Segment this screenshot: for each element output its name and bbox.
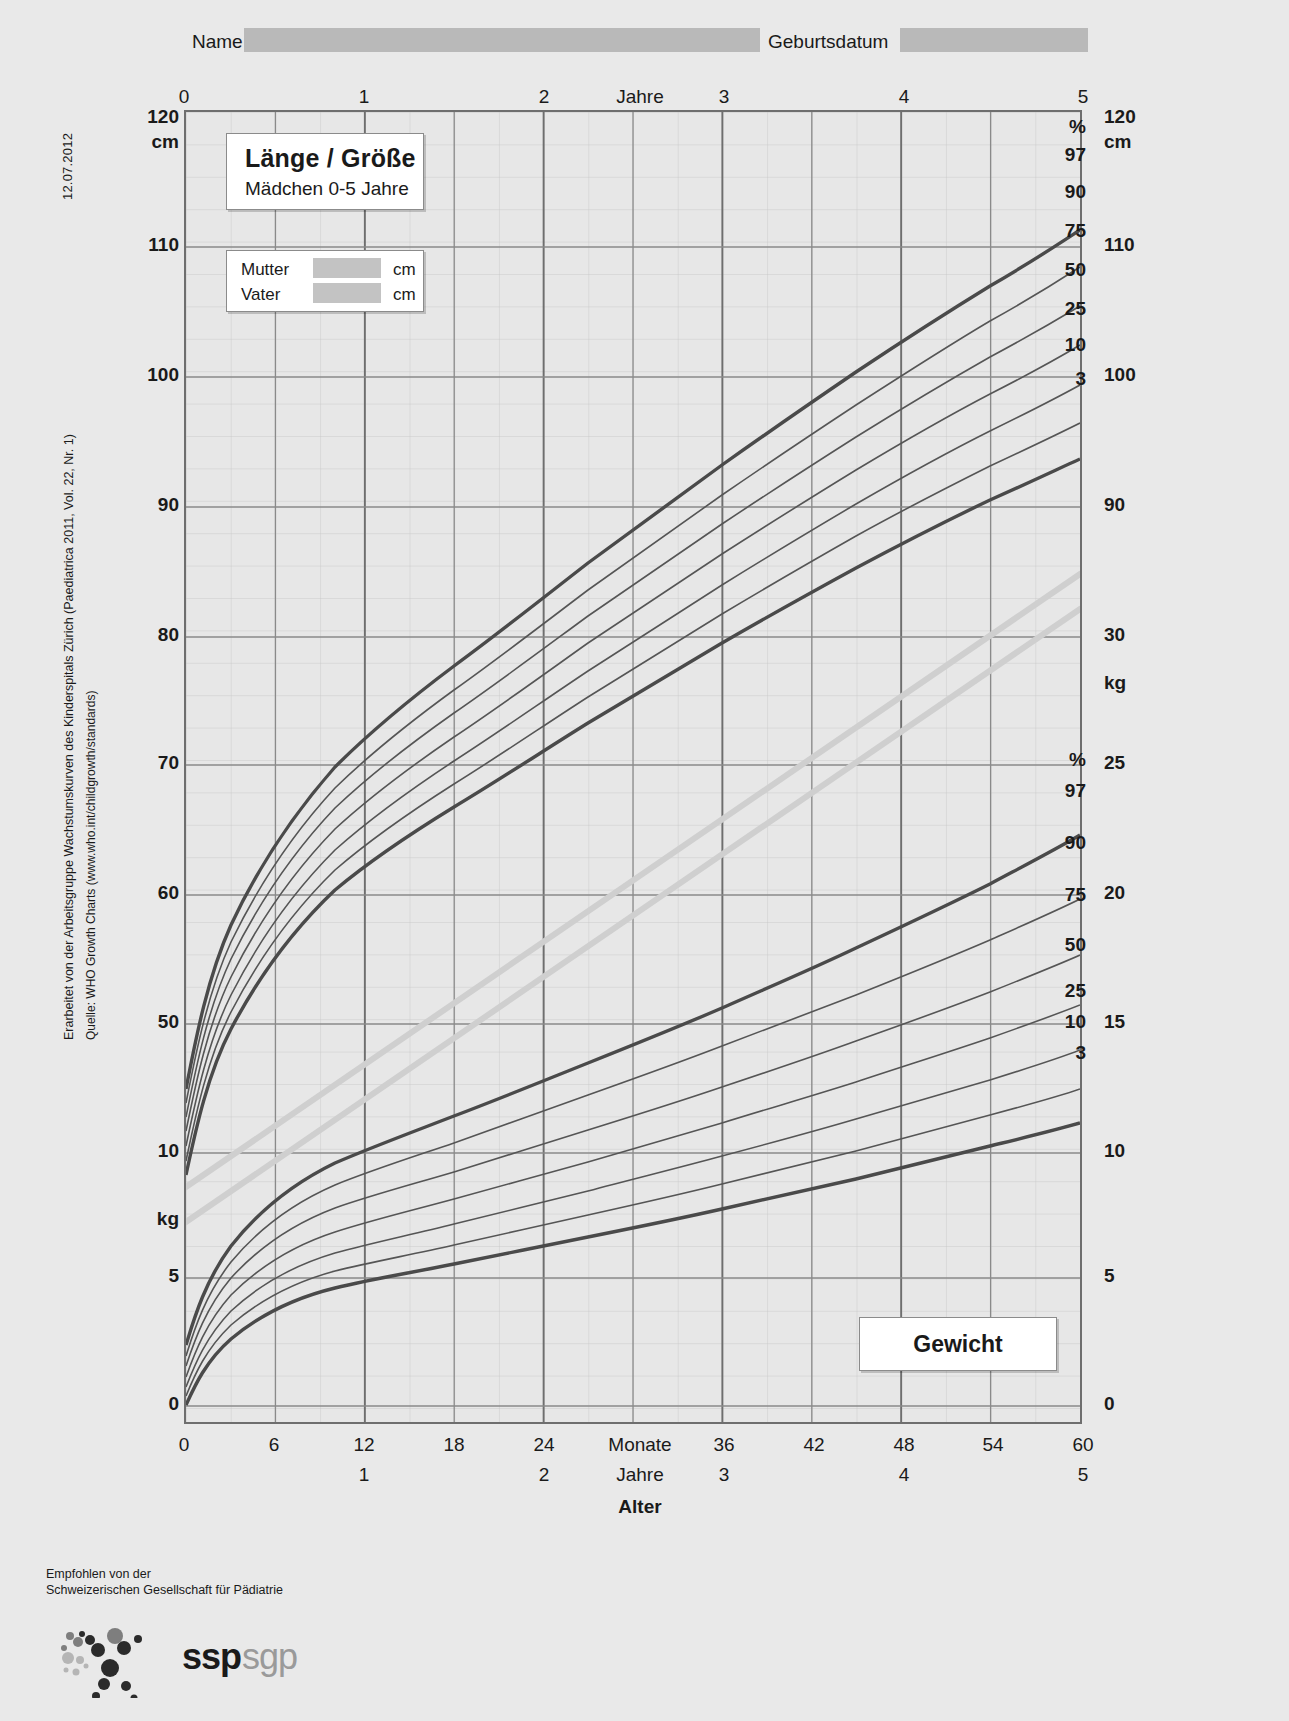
weight-section-title: Gewicht [860, 1318, 1056, 1370]
ylabel-length-unit: cm [119, 131, 179, 153]
ylabel-length-70: 70 [119, 752, 179, 774]
weight-pct-90: 90 [1042, 832, 1086, 854]
weight-pct-97: 97 [1042, 780, 1086, 802]
top-axis-unit-label: Jahre [616, 86, 664, 108]
top-tick-1: 1 [359, 86, 370, 108]
mother-unit: cm [393, 260, 416, 280]
year-tick-2: 2 [539, 1464, 550, 1486]
ylabel-weight-unit: kg [119, 1208, 179, 1230]
top-tick-3: 3 [719, 86, 730, 108]
top-tick-2: 2 [539, 86, 550, 108]
weight-pct-3: 3 [1042, 1042, 1086, 1064]
year-tick-4: 4 [899, 1464, 910, 1486]
year-tick-5: 5 [1078, 1464, 1089, 1486]
ylabel-weight-5: 5 [119, 1265, 179, 1287]
month-tick-0: 0 [179, 1434, 190, 1456]
birthdate-label: Geburtsdatum [768, 31, 888, 53]
ylabel-length-120: 120 [119, 106, 179, 128]
bottom-axis-months-label: Monate [608, 1434, 671, 1456]
footer-line-2: Schweizerischen Gesellschaft für Pädiatr… [46, 1582, 283, 1598]
ylabel-length-90: 90 [119, 494, 179, 516]
name-input[interactable] [244, 28, 760, 52]
ylabel-weight-10: 10 [119, 1140, 179, 1162]
length-percent-symbol: % [1042, 116, 1086, 138]
weight-label-box: Gewicht [859, 1317, 1057, 1371]
length-pct-75: 75 [1042, 220, 1086, 242]
footer-line-1: Empfohlen von der [46, 1566, 283, 1582]
logo-word-sgp: sgp [242, 1636, 297, 1678]
footer-recommendation: Empfohlen von der Schweizerischen Gesell… [46, 1566, 283, 1598]
length-pct-97: 97 [1042, 144, 1086, 166]
ylabel-right-length-100: 100 [1104, 364, 1164, 386]
top-tick-5: 5 [1078, 86, 1089, 108]
year-tick-3: 3 [719, 1464, 730, 1486]
month-tick-12: 12 [353, 1434, 374, 1456]
header: Name Geburtsdatum [0, 28, 1289, 58]
ylabel-weight-0: 0 [119, 1393, 179, 1415]
ylabel-right-length-110: 110 [1104, 234, 1164, 256]
month-tick-18: 18 [443, 1434, 464, 1456]
title-box: Länge / Größe Mädchen 0-5 Jahre [226, 133, 424, 210]
month-tick-42: 42 [803, 1434, 824, 1456]
chart-subtitle: Mädchen 0-5 Jahre [245, 178, 409, 200]
ylabel-length-110: 110 [119, 234, 179, 256]
ylabel-length-60: 60 [119, 882, 179, 904]
bottom-axis-years-row: 1 2 Jahre 3 4 5 [0, 1464, 1289, 1494]
month-tick-60: 60 [1072, 1434, 1093, 1456]
weight-pct-10: 10 [1042, 1011, 1086, 1033]
weight-pct-25: 25 [1042, 980, 1086, 1002]
ylabel-right-weight-5: 5 [1104, 1265, 1164, 1287]
logo-dots-icon [46, 1612, 176, 1698]
ylabel-right-weight-20: 20 [1104, 882, 1164, 904]
ylabel-right-weight-25: 25 [1104, 752, 1164, 774]
parents-heights-box: Mutter cm Vater cm [226, 250, 424, 312]
month-tick-36: 36 [713, 1434, 734, 1456]
ylabel-right-weight-0: 0 [1104, 1393, 1164, 1415]
credit-line-1: Erarbeitet von der Arbeitsgruppe Wachstu… [62, 434, 76, 1040]
weight-percent-symbol: % [1042, 749, 1086, 771]
month-tick-48: 48 [893, 1434, 914, 1456]
weight-pct-50: 50 [1042, 934, 1086, 956]
father-label: Vater [241, 285, 280, 305]
ylabel-right-weight-30: 30 [1104, 624, 1164, 646]
bottom-axis-months-row: 0 6 12 18 24 Monate 36 42 48 54 60 [0, 1434, 1289, 1464]
bottom-axis-years-label: Jahre [616, 1464, 664, 1486]
logo-word-ssp: ssp [182, 1636, 241, 1678]
ylabel-right-length-90: 90 [1104, 494, 1164, 516]
birthdate-input[interactable] [900, 28, 1088, 52]
month-tick-54: 54 [982, 1434, 1003, 1456]
length-pct-25: 25 [1042, 298, 1086, 320]
mother-label: Mutter [241, 260, 289, 280]
weight-pct-75: 75 [1042, 884, 1086, 906]
length-pct-90: 90 [1042, 181, 1086, 203]
length-pct-50: 50 [1042, 259, 1086, 281]
growth-chart-page: Name Geburtsdatum 12.07.2012 Erarbeitet … [0, 0, 1289, 1721]
father-height-input[interactable] [313, 283, 381, 303]
x-axis-title: Alter [618, 1496, 661, 1518]
top-axis-years: 0 1 2 Jahre 3 4 5 [0, 86, 1289, 110]
mother-height-input[interactable] [313, 258, 381, 278]
length-pct-3: 3 [1042, 368, 1086, 390]
ylabel-right-weight-15: 15 [1104, 1011, 1164, 1033]
credit-line-2: Quelle: WHO Growth Charts (www.who.int/c… [84, 691, 98, 1040]
ylabel-right-length-unit: cm [1104, 131, 1164, 153]
top-tick-0: 0 [179, 86, 190, 108]
top-tick-4: 4 [899, 86, 910, 108]
father-unit: cm [393, 285, 416, 305]
ylabel-right-length-120: 120 [1104, 106, 1164, 128]
ylabel-length-100: 100 [119, 364, 179, 386]
ylabel-length-50: 50 [119, 1011, 179, 1033]
ylabel-right-weight-unit: kg [1104, 672, 1164, 694]
ylabel-right-weight-10: 10 [1104, 1140, 1164, 1162]
name-label: Name [192, 31, 243, 53]
ssp-sgp-logo: ssp sgp [46, 1612, 346, 1704]
revision-date: 12.07.2012 [60, 133, 75, 200]
ylabel-length-80: 80 [119, 624, 179, 646]
chart-title: Länge / Größe [245, 144, 416, 173]
month-tick-6: 6 [269, 1434, 280, 1456]
year-tick-1: 1 [359, 1464, 370, 1486]
month-tick-24: 24 [533, 1434, 554, 1456]
bottom-axis: 0 6 12 18 24 Monate 36 42 48 54 60 1 2 J… [0, 1434, 1289, 1494]
length-pct-10: 10 [1042, 334, 1086, 356]
